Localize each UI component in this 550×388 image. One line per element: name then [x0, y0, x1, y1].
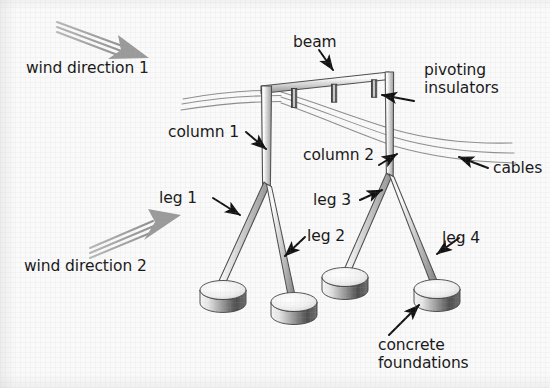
label-pivoting-insulators-line-1: pivoting [424, 61, 486, 79]
leg-1 [216, 182, 270, 291]
concrete-foundations-group [200, 268, 460, 325]
foundation-4 [414, 280, 460, 312]
label-wind-direction-1: wind direction 1 [26, 60, 149, 78]
leader-arrow-leg-1 [213, 198, 240, 215]
label-column-1: column 1 [168, 124, 239, 142]
label-pivoting-insulators: pivoting insulators [424, 62, 499, 97]
label-leg-1: leg 1 [159, 190, 197, 208]
pivoting-insulator-2 [332, 84, 337, 102]
leader-arrow-cables [459, 157, 488, 168]
foundation-2 [271, 293, 317, 325]
leg-2 [267, 184, 297, 303]
leg-4 [389, 174, 441, 291]
wind-arrow-down-right-icon [57, 22, 149, 59]
foundation-3 [322, 268, 368, 300]
pivoting-insulator-3 [372, 80, 377, 98]
leader-arrow-leg-2 [285, 237, 305, 256]
label-column-2: column 2 [303, 147, 374, 165]
label-leg-4: leg 4 [442, 230, 480, 248]
label-cables: cables [493, 160, 542, 178]
label-wind-direction-2: wind direction 2 [24, 258, 147, 276]
leader-arrow-foundations [389, 305, 419, 335]
figure-diagram: wind direction 1 wind direction 2 beam p… [0, 0, 550, 388]
label-concrete-foundations-line-1: concrete [378, 336, 445, 354]
wind-arrow-up-right-icon [90, 209, 181, 258]
label-concrete-foundations: concrete foundations [378, 337, 469, 372]
leg-3 [342, 173, 392, 278]
beam [261, 72, 389, 94]
label-concrete-foundations-line-2: foundations [378, 354, 469, 372]
label-pivoting-insulators-line-2: insulators [424, 79, 499, 97]
pivoting-insulator-1 [292, 89, 297, 108]
label-leg-3: leg 3 [313, 192, 351, 210]
label-beam: beam [293, 34, 337, 52]
foundation-1 [200, 281, 246, 313]
leader-arrow-beam [319, 50, 333, 70]
column-1 [262, 86, 272, 186]
label-leg-2: leg 2 [307, 228, 345, 246]
